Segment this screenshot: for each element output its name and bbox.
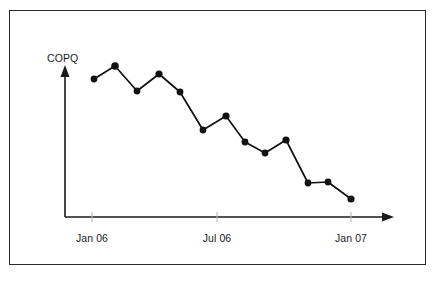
copq-series-line	[94, 66, 351, 199]
y-axis	[61, 65, 70, 217]
copq-line-chart: COPQ Jan 06 Jul 06 Jan 07	[10, 11, 427, 266]
data-point	[262, 150, 269, 157]
data-point	[134, 88, 141, 95]
x-tick-label-jan-06: Jan 06	[76, 232, 108, 244]
data-point	[282, 136, 289, 143]
data-point	[200, 127, 207, 134]
data-point	[325, 179, 332, 186]
x-tick-label-jan-07: Jan 07	[335, 232, 367, 244]
data-point	[111, 62, 119, 70]
data-point	[347, 195, 354, 202]
data-point	[155, 70, 162, 77]
x-axis	[65, 213, 394, 222]
screenshot-root: COPQ Jan 06 Jul 06 Jan 07	[0, 0, 441, 285]
y-axis-title: COPQ	[47, 52, 78, 64]
x-tick-label-jul-06: Jul 06	[203, 232, 232, 244]
slide-frame: COPQ Jan 06 Jul 06 Jan 07	[9, 10, 426, 265]
data-point	[222, 112, 229, 119]
data-point	[242, 139, 249, 146]
data-point	[177, 89, 184, 96]
chart-canvas	[10, 11, 427, 266]
data-point	[91, 76, 98, 83]
data-point	[305, 180, 312, 187]
